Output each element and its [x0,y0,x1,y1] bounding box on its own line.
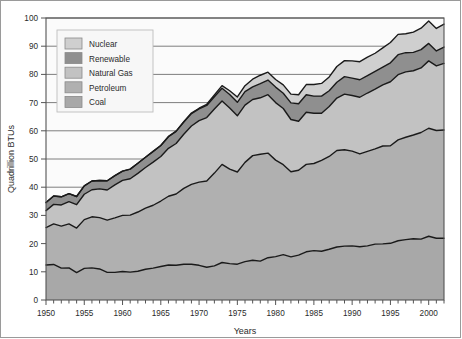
legend-label-natural-gas: Natural Gas [89,69,133,78]
x-tick-label-1975: 1975 [228,309,247,318]
y-axis-title: Quadrillion BTUs [6,124,16,193]
x-tick-label-1990: 1990 [343,309,362,318]
y-tick-label-0: 0 [33,296,38,305]
x-tick-label-1965: 1965 [152,309,171,318]
y-tick-label-100: 100 [24,14,38,23]
energy-consumption-figure: 0102030405060708090100195019551960196519… [0,0,462,339]
x-tick-label-1995: 1995 [381,309,400,318]
y-tick-label-40: 40 [29,183,39,192]
legend-swatch-coal [65,96,82,107]
legend-label-renewable: Renewable [89,55,130,64]
legend-label-nuclear: Nuclear [89,40,117,49]
legend-swatch-petroleum [65,82,82,93]
x-tick-label-1985: 1985 [305,309,324,318]
x-tick-label-1960: 1960 [113,309,132,318]
y-tick-label-10: 10 [29,268,39,277]
x-tick-label-1980: 1980 [267,309,286,318]
legend-label-coal: Coal [89,98,106,107]
y-tick-label-30: 30 [29,211,39,220]
legend-swatch-renewable [65,53,82,64]
y-tick-label-50: 50 [29,155,39,164]
y-tick-label-90: 90 [29,42,39,51]
x-tick-label-1970: 1970 [190,309,209,318]
legend-swatch-natural-gas [65,67,82,78]
stacked-area-chart: 0102030405060708090100195019551960196519… [0,0,462,339]
legend-label-petroleum: Petroleum [89,84,126,93]
legend-swatch-nuclear [65,38,82,49]
y-tick-label-70: 70 [29,99,39,108]
x-tick-label-2000: 2000 [420,309,439,318]
x-tick-label-1955: 1955 [75,309,94,318]
x-tick-label-1950: 1950 [37,309,56,318]
y-tick-label-60: 60 [29,127,39,136]
y-tick-label-80: 80 [29,70,39,79]
y-tick-label-20: 20 [29,240,39,249]
x-axis-title: Years [234,326,257,336]
